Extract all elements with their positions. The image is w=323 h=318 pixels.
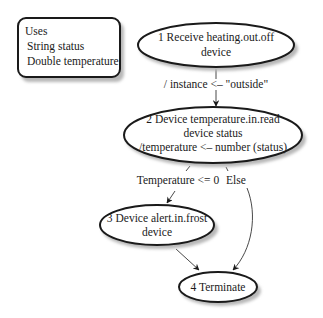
node-text: device bbox=[142, 226, 172, 238]
edge-label: Else bbox=[226, 174, 246, 186]
edge-label: Temperature <= 0 bbox=[137, 174, 220, 187]
edge-1-to-2: / instance <– "outside" bbox=[164, 69, 268, 106]
node-text: device status bbox=[183, 127, 243, 139]
node-receive-heating: 1 Receive heating.out.off device bbox=[138, 23, 298, 71]
edge-arrow bbox=[167, 191, 175, 203]
node-text: 2 Device temperature.in.read bbox=[146, 113, 280, 126]
edge-line bbox=[186, 166, 190, 171]
uses-box: Uses String status Double temperature bbox=[18, 18, 124, 82]
edge-arrow bbox=[176, 249, 199, 270]
node-text: 3 Device alert.in.frost bbox=[107, 212, 208, 224]
node-ellipse bbox=[100, 205, 214, 245]
edge-3-to-4 bbox=[176, 249, 199, 270]
state-diagram: Uses String status Double temperature / … bbox=[0, 0, 323, 318]
uses-box-line: String status bbox=[27, 40, 85, 53]
node-terminate: 4 Terminate bbox=[179, 272, 261, 306]
uses-box-title: Uses bbox=[25, 25, 48, 37]
edge-arrow bbox=[233, 188, 252, 270]
edge-2-to-4: Else bbox=[226, 167, 252, 270]
node-text: /temperature <– number (status) bbox=[139, 141, 287, 154]
node-text: 1 Receive heating.out.off bbox=[158, 31, 274, 44]
node-text: device bbox=[201, 46, 231, 58]
node-ellipse bbox=[138, 23, 294, 67]
edge-2-to-3: Temperature <= 0 bbox=[137, 166, 220, 203]
node-device-alert: 3 Device alert.in.frost device bbox=[100, 205, 218, 249]
edge-label: / instance <– "outside" bbox=[164, 78, 268, 90]
uses-box-line: Double temperature bbox=[27, 55, 119, 68]
node-text: 4 Terminate bbox=[191, 281, 246, 293]
node-device-temperature: 2 Device temperature.in.read device stat… bbox=[124, 107, 306, 167]
edge-line bbox=[226, 167, 228, 171]
